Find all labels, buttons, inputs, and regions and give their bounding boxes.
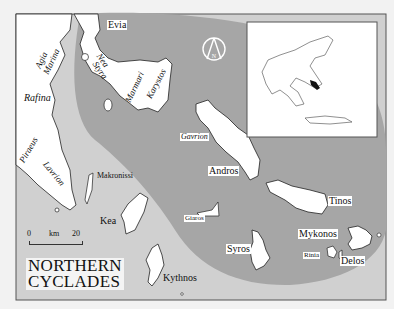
label-evia: Evia — [107, 20, 127, 30]
islet — [82, 54, 89, 61]
svg-text:N: N — [212, 53, 217, 59]
scale-bar-line — [29, 241, 83, 245]
label-gavrion: Gavrion — [180, 133, 209, 141]
label-tinos: Tinos — [328, 196, 352, 206]
label-makronissi: Makronissi — [97, 172, 133, 180]
label-rinia: Rinia — [303, 252, 320, 259]
islet — [104, 99, 112, 111]
label-delos: Delos — [340, 256, 365, 266]
islet — [55, 208, 59, 212]
label-giaros: Giaros — [184, 215, 205, 222]
label-mykonos: Mykonos — [298, 229, 338, 239]
islet — [181, 293, 184, 296]
islet — [377, 233, 381, 237]
map-title: NORTHERN CYCLADES — [26, 258, 124, 290]
scale-start: 0 — [27, 229, 31, 238]
scale-end: 20 — [72, 229, 80, 238]
label-rafina: Rafina — [24, 93, 51, 103]
scale-unit: km — [49, 229, 59, 238]
label-syros: Syros — [226, 244, 251, 254]
label-kea: Kea — [100, 216, 116, 226]
label-kythnos: Kythnos — [163, 273, 197, 283]
map-title-line2: CYCLADES — [26, 274, 124, 290]
label-andros: Andros — [208, 166, 239, 176]
